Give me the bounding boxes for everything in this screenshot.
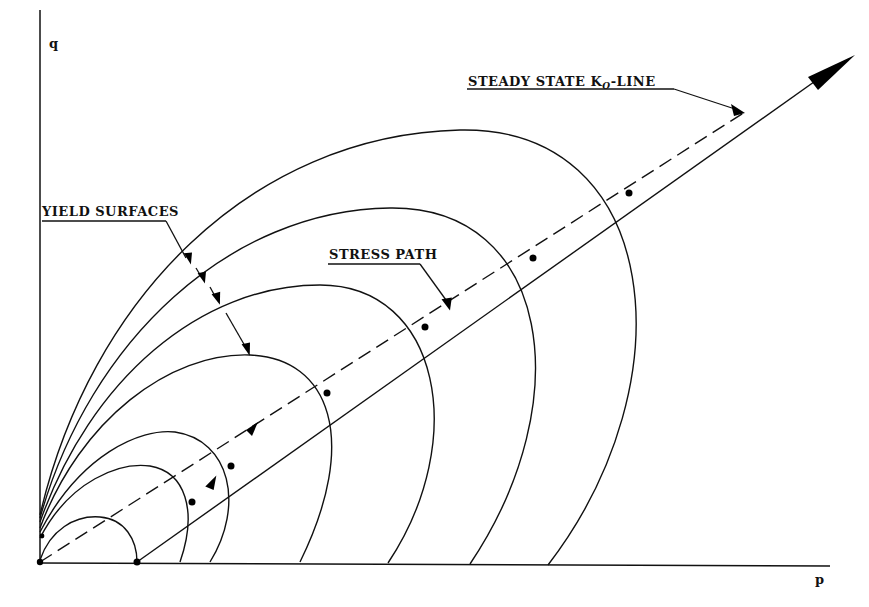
stress-path xyxy=(137,55,855,562)
dashed-line-arrow-icon xyxy=(246,422,258,436)
point-1 xyxy=(134,559,141,566)
yield-surfaces-arrow-4-icon xyxy=(240,341,252,356)
point-3 xyxy=(228,463,235,470)
yield-surface-1 xyxy=(40,517,137,562)
yield-surfaces-label: YIELD SURFACES xyxy=(41,204,179,219)
p-axis xyxy=(38,563,830,566)
yield-surface-7 xyxy=(40,130,636,565)
yield-surface-diagram: q p STEADY STATE KO-LINE xyxy=(0,0,869,607)
yield-surface-6 xyxy=(40,208,535,564)
point-4 xyxy=(324,390,331,397)
steady-state-leader xyxy=(674,89,738,110)
annotation-steady-state: STEADY STATE KO-LINE xyxy=(467,74,745,116)
stress-path-leader xyxy=(420,264,446,300)
yield-surfaces-leader-4 xyxy=(226,313,245,346)
yield-surfaces-leader xyxy=(166,221,186,258)
stress-path-terminal-arrow-icon xyxy=(808,55,855,90)
steady-state-ko-line xyxy=(40,112,745,562)
stress-path-line xyxy=(137,72,828,562)
annotation-stress-path: STRESS PATH xyxy=(328,247,452,310)
yield-surface-4 xyxy=(40,355,332,562)
yield-surface-5 xyxy=(40,285,434,563)
point-7 xyxy=(626,190,633,197)
point-6 xyxy=(530,255,537,262)
axes: q p xyxy=(38,10,830,587)
yield-surface-3 xyxy=(40,432,229,562)
point-5 xyxy=(422,324,429,331)
stress-path-arrow-icon xyxy=(204,476,217,491)
yield-surfaces xyxy=(40,130,636,565)
yield-surfaces-arrow-3-icon xyxy=(210,290,222,305)
point-origin-upper xyxy=(40,534,45,539)
q-axis-label: q xyxy=(49,36,58,51)
p-axis-label: p xyxy=(815,572,824,587)
stress-path-label: STRESS PATH xyxy=(329,247,437,262)
stress-path-leader-arrow-icon xyxy=(440,296,452,310)
steady-state-leader-arrow-icon xyxy=(731,104,745,116)
point-origin xyxy=(37,559,43,565)
annotation-yield-surfaces: YIELD SURFACES xyxy=(41,204,252,356)
point-2 xyxy=(189,499,196,506)
